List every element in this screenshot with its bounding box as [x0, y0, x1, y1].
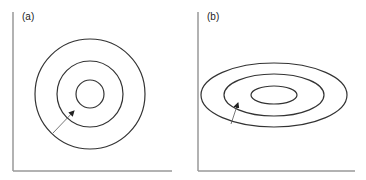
panel-a-label: (a): [22, 11, 34, 22]
panel-a: [13, 12, 172, 171]
diagram-canvas: [0, 0, 366, 180]
contour-1: [35, 39, 145, 149]
contour-2: [224, 74, 324, 116]
contour-1: [201, 63, 347, 127]
panel-b-label: (b): [207, 11, 219, 22]
contour-2: [57, 61, 123, 127]
contour-3: [76, 80, 104, 108]
panel-b: [198, 12, 355, 171]
contour-3: [251, 86, 297, 104]
